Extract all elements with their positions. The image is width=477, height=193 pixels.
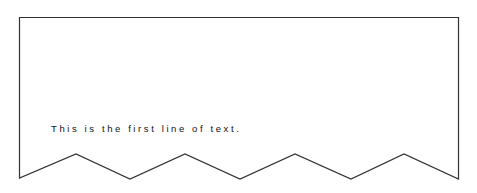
document-text-line-1: This is the first line of text.: [51, 123, 241, 135]
document-shape: [0, 0, 477, 193]
document-outline: [20, 18, 459, 180]
